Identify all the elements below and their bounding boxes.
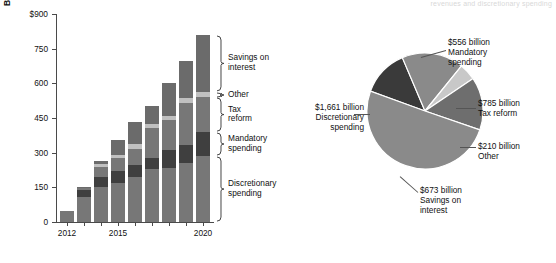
bracket bbox=[216, 35, 225, 92]
x-axis-tick bbox=[84, 223, 85, 226]
pie-leader-line bbox=[400, 176, 419, 193]
bar-segment bbox=[94, 161, 108, 164]
y-axis-tick-label: 600 bbox=[16, 78, 48, 88]
stacked-bar-chart: Billion 0150300450600750$900 20122015202… bbox=[0, 0, 280, 263]
pie-slice-label: $1,661 billion Discretionary spending bbox=[286, 103, 364, 132]
bracket bbox=[216, 132, 225, 156]
bar-segment bbox=[162, 120, 176, 150]
y-axis-tick-label: 0 bbox=[16, 217, 48, 227]
bar-column[interactable] bbox=[162, 14, 176, 222]
bar-segment bbox=[196, 92, 210, 97]
pie-chart: Mandatory spending $556 billionTax refor… bbox=[280, 0, 556, 263]
bar-segment bbox=[179, 98, 193, 103]
x-axis-tick bbox=[169, 223, 170, 226]
bar-segment bbox=[60, 211, 74, 222]
bar-segment bbox=[179, 61, 193, 98]
y-axis-tick-label: 750 bbox=[16, 44, 48, 54]
x-axis-tick bbox=[118, 223, 119, 226]
bar-segment bbox=[128, 149, 142, 166]
bar-segment bbox=[196, 132, 210, 156]
bar-segment bbox=[145, 158, 159, 169]
bar-column[interactable] bbox=[145, 14, 159, 222]
bar-segment bbox=[77, 188, 91, 190]
x-axis-tick bbox=[135, 223, 136, 226]
bracket-label: Tax reform bbox=[228, 105, 252, 125]
y-axis-tick-label: $900 bbox=[16, 9, 48, 19]
bar-segment bbox=[111, 140, 125, 155]
bar-segment bbox=[94, 164, 108, 167]
bar-column[interactable] bbox=[60, 14, 74, 222]
bar-column[interactable] bbox=[111, 14, 125, 222]
bar-segment bbox=[77, 190, 91, 196]
bracket-label: Discretionary spending bbox=[228, 179, 276, 199]
bracket-label: Mandatory spending bbox=[228, 134, 267, 154]
y-axis-tick bbox=[52, 14, 56, 15]
bracket-label: Savings on interest bbox=[228, 53, 269, 73]
bar-column[interactable] bbox=[196, 14, 210, 222]
bracket bbox=[216, 156, 225, 222]
bar-segment bbox=[111, 155, 125, 159]
x-axis-tick-label: 2015 bbox=[98, 228, 138, 238]
bar-segment bbox=[196, 35, 210, 92]
y-axis-tick bbox=[52, 153, 56, 154]
bar-segment bbox=[196, 156, 210, 222]
x-axis-tick bbox=[186, 223, 187, 226]
y-axis-tick bbox=[52, 187, 56, 188]
y-axis-tick bbox=[52, 222, 56, 223]
y-axis-tick-label: 150 bbox=[16, 182, 48, 192]
bar-segment bbox=[145, 124, 159, 129]
bar-segment bbox=[77, 197, 91, 222]
pie-slice-label: $785 billion Tax reform bbox=[478, 99, 520, 119]
pie-leader-line bbox=[456, 108, 476, 109]
bar-segment bbox=[128, 144, 142, 148]
bar-column[interactable] bbox=[179, 14, 193, 222]
bar-segment bbox=[179, 145, 193, 163]
bar-column[interactable] bbox=[94, 14, 108, 222]
bar-segment bbox=[94, 187, 108, 222]
y-axis-line bbox=[56, 14, 57, 222]
bracket-label: Other bbox=[228, 90, 249, 100]
bar-column[interactable] bbox=[77, 14, 91, 222]
x-axis-tick bbox=[152, 223, 153, 226]
bracket bbox=[216, 97, 225, 132]
y-axis-tick-label: 300 bbox=[16, 148, 48, 158]
pie-slice-label: $210 billion Other bbox=[478, 142, 520, 162]
pie-slices: Mandatory spending $556 billionTax refor… bbox=[366, 52, 484, 170]
bar-segment bbox=[145, 169, 159, 222]
x-axis-tick bbox=[67, 223, 68, 226]
y-axis-tick bbox=[52, 118, 56, 119]
x-axis-tick bbox=[101, 223, 102, 226]
y-axis-tick bbox=[52, 83, 56, 84]
figure-canvas: revenues and discretionary spending Bill… bbox=[0, 0, 556, 263]
bar-segment bbox=[162, 150, 176, 168]
y-axis-tick bbox=[52, 49, 56, 50]
bar-segment bbox=[111, 183, 125, 222]
bar-column[interactable] bbox=[128, 14, 142, 222]
x-axis-tick-label: 2020 bbox=[183, 228, 223, 238]
bar-segment bbox=[145, 106, 159, 124]
bar-segment bbox=[128, 177, 142, 222]
bar-segment bbox=[179, 163, 193, 222]
bar-segment bbox=[94, 177, 108, 187]
bar-segment bbox=[162, 83, 176, 115]
bar-segment bbox=[196, 97, 210, 132]
bar-segment bbox=[179, 103, 193, 145]
x-axis-tick bbox=[203, 223, 204, 226]
bar-chart-y-axis-title: Billion bbox=[2, 0, 12, 6]
bar-segment bbox=[128, 165, 142, 177]
bar-segment bbox=[145, 128, 159, 158]
bar-segment bbox=[162, 168, 176, 222]
pie-leader-line bbox=[460, 147, 476, 148]
y-axis-tick-label: 450 bbox=[16, 113, 48, 123]
bar-segment bbox=[94, 167, 108, 177]
pie-slice-label: $673 billion Savings on interest bbox=[420, 186, 462, 215]
pie-slice-label: $556 billion Mandatory spending bbox=[448, 38, 490, 67]
bar-segment bbox=[128, 122, 142, 144]
bar-segment bbox=[111, 171, 125, 183]
pie-circle: Mandatory spending $556 billionTax refor… bbox=[366, 52, 484, 170]
bar-segment bbox=[162, 116, 176, 121]
x-axis-tick-label: 2012 bbox=[47, 228, 87, 238]
bar-segment bbox=[111, 158, 125, 171]
